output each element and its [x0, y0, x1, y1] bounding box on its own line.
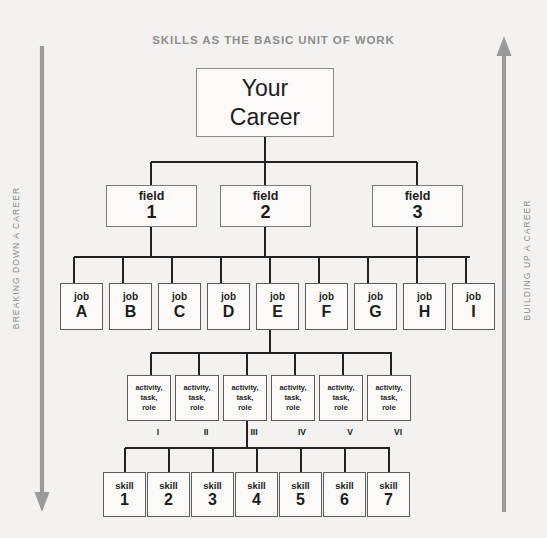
activity-iii-line-3: role — [238, 403, 252, 413]
diagram-title: SKILLS AS THE BASIC UNIT OF WORK — [0, 34, 547, 46]
skill-5-value: 5 — [296, 491, 305, 508]
skill-7-value: 7 — [384, 491, 393, 508]
activity-iii-line-1: activity, — [232, 383, 259, 393]
job-d-caption: job — [221, 292, 236, 303]
activity-ii-line-1: activity, — [184, 383, 211, 393]
job-a-caption: job — [74, 292, 89, 303]
activity-vi-line-2: task, — [381, 393, 398, 403]
node-job-e[interactable]: job E — [256, 283, 299, 330]
job-g-value: G — [369, 303, 381, 320]
root-line-2: Career — [230, 103, 300, 131]
activity-ii-line-3: role — [190, 403, 204, 413]
activity-i-line-2: task, — [141, 393, 158, 403]
activity-iv-line-2: task, — [285, 393, 302, 403]
arrow-up-icon — [497, 36, 512, 512]
root-line-1: Your — [242, 74, 288, 102]
node-job-f[interactable]: job F — [305, 283, 348, 330]
node-field-3[interactable]: field 3 — [372, 185, 463, 227]
job-b-caption: job — [123, 292, 138, 303]
field-1-value: 1 — [146, 203, 156, 222]
activity-ii-line-2: task, — [189, 393, 206, 403]
activity-vi-line-1: activity, — [376, 383, 403, 393]
skill-6-caption: skill — [335, 481, 354, 491]
node-job-a[interactable]: job A — [60, 283, 103, 330]
node-job-i[interactable]: job I — [452, 283, 495, 330]
activity-numeral-ii: II — [194, 427, 218, 437]
job-c-caption: job — [172, 292, 187, 303]
job-h-caption: job — [417, 292, 432, 303]
node-skill-7[interactable]: skill 7 — [367, 472, 410, 517]
job-e-value: E — [272, 303, 283, 320]
skill-3-value: 3 — [208, 491, 217, 508]
job-h-value: H — [419, 303, 431, 320]
activity-v-line-2: task, — [333, 393, 350, 403]
job-b-value: B — [125, 303, 137, 320]
activity-i-line-1: activity, — [136, 383, 163, 393]
node-your-career[interactable]: Your Career — [196, 68, 334, 137]
node-job-g[interactable]: job G — [354, 283, 397, 330]
skill-1-caption: skill — [115, 481, 134, 491]
skill-3-caption: skill — [203, 481, 222, 491]
left-axis-label: BREAKING DOWN A CAREER — [11, 178, 21, 338]
skill-4-caption: skill — [247, 481, 266, 491]
node-job-b[interactable]: job B — [109, 283, 152, 330]
job-f-value: F — [322, 303, 332, 320]
activity-iv-line-1: activity, — [280, 383, 307, 393]
diagram-canvas: SKILLS AS THE BASIC UNIT OF WORK BREAKIN… — [0, 0, 547, 538]
job-e-caption: job — [270, 292, 285, 303]
job-a-value: A — [76, 303, 88, 320]
activity-v-line-1: activity, — [328, 383, 355, 393]
activity-numeral-iii: III — [242, 427, 266, 437]
node-activity-iii[interactable]: activity, task, role — [223, 375, 267, 421]
node-job-h[interactable]: job H — [403, 283, 446, 330]
node-skill-5[interactable]: skill 5 — [279, 472, 322, 517]
node-job-d[interactable]: job D — [207, 283, 250, 330]
node-skill-3[interactable]: skill 3 — [191, 472, 234, 517]
activity-iii-line-2: task, — [237, 393, 254, 403]
activity-i-line-3: role — [142, 403, 156, 413]
activity-v-line-3: role — [334, 403, 348, 413]
node-activity-ii[interactable]: activity, task, role — [175, 375, 219, 421]
field-3-value: 3 — [412, 203, 422, 222]
field-2-value: 2 — [260, 203, 270, 222]
job-g-caption: job — [368, 292, 383, 303]
activity-iv-line-3: role — [286, 403, 300, 413]
node-field-1[interactable]: field 1 — [106, 185, 197, 227]
skill-5-caption: skill — [291, 481, 310, 491]
node-activity-iv[interactable]: activity, task, role — [271, 375, 315, 421]
node-job-c[interactable]: job C — [158, 283, 201, 330]
activity-numeral-v: V — [338, 427, 362, 437]
arrow-down-icon — [35, 46, 50, 512]
node-field-2[interactable]: field 2 — [220, 185, 311, 227]
job-i-value: I — [471, 303, 475, 320]
node-skill-2[interactable]: skill 2 — [147, 472, 190, 517]
node-activity-vi[interactable]: activity, task, role — [367, 375, 411, 421]
skill-4-value: 4 — [252, 491, 261, 508]
node-skill-6[interactable]: skill 6 — [323, 472, 366, 517]
right-axis-label: BUILDING UP A CAREER — [522, 180, 532, 340]
job-f-caption: job — [319, 292, 334, 303]
node-skill-4[interactable]: skill 4 — [235, 472, 278, 517]
activity-numeral-i: I — [146, 427, 170, 437]
skill-1-value: 1 — [120, 491, 129, 508]
node-skill-1[interactable]: skill 1 — [103, 472, 146, 517]
activity-numeral-vi: VI — [386, 427, 410, 437]
skill-7-caption: skill — [379, 481, 398, 491]
job-d-value: D — [223, 303, 235, 320]
job-i-caption: job — [466, 292, 481, 303]
node-activity-v[interactable]: activity, task, role — [319, 375, 363, 421]
node-activity-i[interactable]: activity, task, role — [127, 375, 171, 421]
skill-6-value: 6 — [340, 491, 349, 508]
job-c-value: C — [174, 303, 186, 320]
skill-2-caption: skill — [159, 481, 178, 491]
activity-vi-line-3: role — [382, 403, 396, 413]
skill-2-value: 2 — [164, 491, 173, 508]
activity-numeral-iv: IV — [290, 427, 314, 437]
